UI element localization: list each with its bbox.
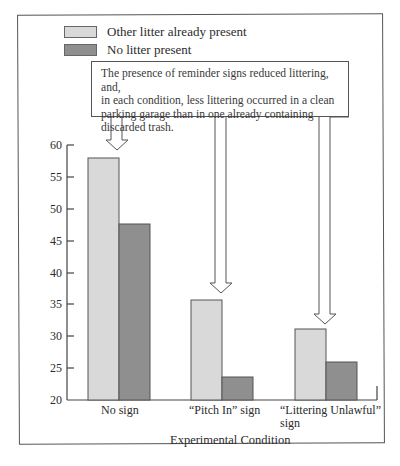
y-axis — [67, 145, 74, 400]
bar-no-sign-other-litter — [88, 158, 119, 400]
annotation-line: discarded trash. — [101, 121, 348, 135]
y-tick-label: 20 — [40, 393, 62, 408]
annotation-line: in each condition, less littering occurr… — [101, 94, 348, 108]
y-tick-label: 55 — [40, 170, 62, 185]
x-category-label: “Pitch In” sign — [189, 404, 260, 417]
bar-unlawful-no-litter — [326, 362, 357, 400]
bar-pitch-in-other-litter — [191, 300, 222, 400]
y-tick-label: 50 — [40, 202, 62, 217]
y-tick-label: 40 — [40, 266, 62, 281]
x-category-label: No sign — [101, 404, 139, 417]
bar-unlawful-other-litter — [295, 329, 326, 400]
x-axis-title: Experimental Condition — [170, 433, 290, 448]
arrow-icon — [210, 117, 232, 293]
y-tick-label: 60 — [40, 138, 62, 153]
x-category-label: “Littering Unlawful” sign — [280, 404, 381, 430]
arrow-icon — [314, 117, 336, 324]
annotation-line: parking garage than in one already conta… — [101, 108, 348, 122]
y-tick-label: 45 — [40, 234, 62, 249]
y-tick-label: 25 — [40, 361, 62, 376]
y-tick-label: 35 — [40, 297, 62, 312]
y-tick-label: 30 — [40, 329, 62, 344]
annotation-line: The presence of reminder signs reduced l… — [101, 67, 348, 94]
bar-pitch-in-no-litter — [222, 377, 253, 400]
bar-no-sign-no-litter — [119, 224, 150, 400]
annotation-callout: The presence of reminder signs reduced l… — [91, 61, 349, 117]
x-category-label-line: sign — [280, 417, 381, 430]
